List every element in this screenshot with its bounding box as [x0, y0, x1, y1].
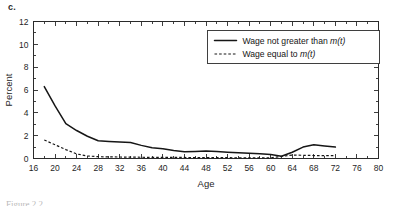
- legend-variable-2: m(t): [300, 49, 315, 59]
- legend-label-2: Wage equal to m(t): [243, 49, 316, 59]
- y-tick-label: 8: [24, 62, 29, 72]
- series-line-1: [44, 87, 335, 157]
- y-axis-title: Percent: [3, 73, 14, 106]
- y-tick-label: 10: [19, 40, 29, 50]
- y-tick-label: 12: [19, 17, 29, 27]
- x-tick-label: 16: [29, 163, 39, 173]
- plot-area: 1620242832364044485256606468727680024681…: [3, 17, 384, 189]
- x-axis-title: Age: [198, 178, 215, 189]
- y-tick-label: 0: [24, 154, 29, 164]
- x-tick-label: 60: [266, 163, 276, 173]
- x-tick-label: 44: [180, 163, 190, 173]
- x-tick-label: 56: [244, 163, 254, 173]
- x-tick-label: 36: [137, 163, 147, 173]
- x-tick-label: 72: [331, 163, 341, 173]
- x-tick-label: 64: [288, 163, 298, 173]
- x-tick-label: 28: [93, 163, 103, 173]
- figure-caption: Figure 2.2: [6, 199, 43, 206]
- legend-label-1: Wage not greater than m(t): [243, 36, 346, 46]
- x-tick-label: 68: [309, 163, 319, 173]
- x-tick-label: 52: [223, 163, 233, 173]
- y-tick-label: 4: [24, 108, 29, 118]
- y-tick-label: 2: [24, 131, 29, 141]
- y-tick-label: 6: [24, 85, 29, 95]
- legend-variable-1: m(t): [330, 36, 345, 46]
- x-tick-label: 48: [201, 163, 211, 173]
- series-line-2: [44, 140, 335, 158]
- x-tick-label: 40: [158, 163, 168, 173]
- x-tick-label: 24: [72, 163, 82, 173]
- x-tick-label: 32: [115, 163, 125, 173]
- figure-container: c. 1620242832364044485256606468727680024…: [0, 0, 397, 206]
- x-tick-label: 80: [374, 163, 384, 173]
- line-chart: 1620242832364044485256606468727680024681…: [0, 0, 397, 206]
- x-tick-label: 76: [352, 163, 362, 173]
- x-tick-label: 20: [50, 163, 60, 173]
